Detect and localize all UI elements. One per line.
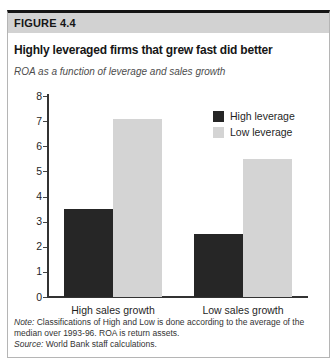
legend-label-low-leverage: Low leverage [230, 125, 292, 140]
legend-label-high-leverage: High leverage [230, 109, 295, 124]
figure-panel: FIGURE 4.4 Highly leveraged firms that g… [7, 10, 330, 358]
y-tick [43, 121, 47, 122]
note-entry: Note: Classifications of High and Low is… [14, 317, 326, 339]
figure-label-band: FIGURE 4.4 [8, 13, 329, 33]
legend-swatch-low-leverage [213, 127, 224, 138]
y-tick-label: 8 [16, 90, 42, 103]
source-label: Source: [14, 339, 43, 349]
bar-chart: 012345678High sales growthLow sales grow… [8, 91, 329, 316]
y-tick-label: 5 [16, 165, 42, 178]
x-category-label-low-sales-growth: Low sales growth [168, 304, 318, 316]
y-tick-label: 3 [16, 215, 42, 228]
y-tick-label: 4 [16, 190, 42, 203]
source-text: World Bank staff calculations. [46, 339, 157, 349]
legend-swatch-high-leverage [213, 111, 224, 122]
bar-low-leverage-high-sales-growth [113, 119, 162, 297]
y-tick [43, 171, 47, 172]
y-tick [43, 297, 47, 298]
y-tick [43, 96, 47, 97]
y-tick [43, 197, 47, 198]
y-axis [47, 94, 49, 298]
bar-high-leverage-high-sales-growth [64, 209, 113, 297]
figure-notes: Note: Classifications of High and Low is… [14, 317, 326, 350]
y-tick-label: 6 [16, 140, 42, 153]
source-entry: Source: World Bank staff calculations. [14, 339, 326, 350]
figure-subtitle: ROA as a function of leverage and sales … [14, 66, 225, 77]
y-tick-label: 0 [16, 291, 42, 304]
note-label: Note: [14, 317, 34, 327]
bar-high-leverage-low-sales-growth [194, 234, 243, 297]
note-text: Classifications of High and Low is done … [14, 317, 304, 338]
y-tick [43, 272, 47, 273]
x-category-label-high-sales-growth: High sales growth [38, 304, 188, 316]
figure-title: Highly leveraged firms that grew fast di… [14, 43, 272, 57]
y-tick [43, 222, 47, 223]
y-tick-label: 1 [16, 265, 42, 278]
y-tick [43, 247, 47, 248]
y-tick [43, 146, 47, 147]
y-tick-label: 2 [16, 240, 42, 253]
figure-number-label: FIGURE 4.4 [14, 13, 76, 33]
bar-low-leverage-low-sales-growth [243, 159, 292, 297]
y-tick-label: 7 [16, 115, 42, 128]
